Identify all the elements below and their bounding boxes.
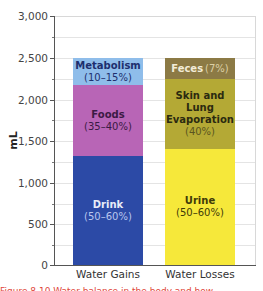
y-tick-label: 2,500 [0,52,48,64]
bar-label: Skin and [176,90,225,102]
bar-percent: (35–40%) [84,121,132,133]
bar-feces: Feces (7%) [165,58,235,79]
bar-percent: (50–60%) [176,207,224,219]
y-tick [50,265,54,266]
bar-percent: (10–15%) [84,72,132,84]
bar-label: Foods [91,109,124,121]
y-tick-label: 500 [0,218,48,230]
bar-label: Metabolism [75,60,141,72]
bar-skin-lung-evaporation: Skin and Lung Evaporation (40%) [165,79,235,149]
x-axis [54,265,256,266]
bar-label: Drink [93,199,123,211]
bar-label: Lung [186,102,214,114]
x-category-label: Water Gains [58,268,158,280]
y-tick [50,16,54,17]
bar-drink: Drink (50–60%) [73,156,143,265]
bar-label: Feces [171,63,203,75]
x-category-label: Water Losses [150,268,250,280]
y-tick-label: 3,000 [0,10,48,22]
bar-percent: (50–60%) [84,211,132,223]
y-minor-tick [52,204,54,205]
y-tick-label: 1,000 [0,177,48,189]
y-tick [50,100,54,101]
y-axis [54,16,55,266]
y-tick [50,141,54,142]
y-minor-tick [52,37,54,38]
y-minor-tick [52,79,54,80]
y-tick [50,183,54,184]
y-tick-label: 0 [0,259,48,271]
y-minor-tick [52,245,54,246]
bar-metabolism: Metabolism (10–15%) [73,58,143,85]
y-axis-title: mL [7,129,20,153]
y-tick-label: 2,000 [0,94,48,106]
bar-percent: (40%) [185,126,215,138]
bar-urine: Urine (50–60%) [165,149,235,265]
bar-label: Evaporation [166,114,234,126]
y-minor-tick [52,120,54,121]
gridline [55,37,255,38]
figure-caption: Figure 8.10 Water balance in the body an… [0,284,263,291]
y-minor-tick [52,162,54,163]
y-tick [50,58,54,59]
bar-percent: (7%) [205,63,229,75]
y-tick [50,224,54,225]
bar-label: Urine [185,195,215,207]
bar-foods: Foods (35–40%) [73,85,143,156]
